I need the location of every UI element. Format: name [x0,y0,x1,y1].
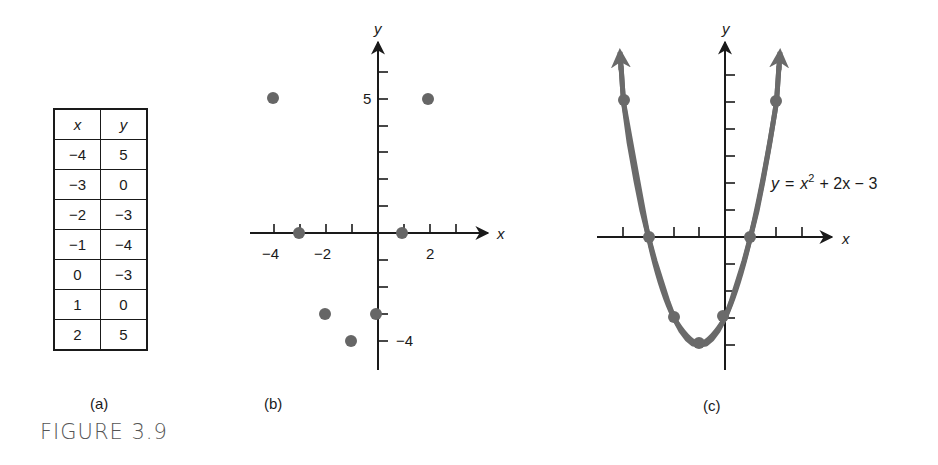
point [319,308,331,320]
point [370,308,382,320]
y-tick-label: 5 [363,90,371,107]
y-tick-label: −4 [396,332,413,349]
y-axis-label: y [721,20,731,37]
x-tick-label: 2 [426,245,434,262]
x-tick-label: −2 [314,245,331,262]
curve-arrow-right [779,52,780,70]
scatter-plot-b: y x −4 −2 2 5 −4 [250,20,505,370]
point [770,95,782,107]
point [345,335,357,347]
point [693,337,705,349]
equation-label: y=x2+ 2x − 3 [770,172,877,192]
parabola-curve [621,58,780,345]
point [267,92,279,104]
point [422,93,434,105]
point [293,227,305,239]
point [643,231,655,243]
charts-canvas: y x −4 −2 2 5 −4 [0,0,938,465]
parabola-plot-c: y x y=x2+ 2x − 3 [597,20,877,370]
point [744,231,756,243]
point [668,311,680,323]
y-ticks [378,72,388,341]
x-tick-label: −4 [262,245,279,262]
x-axis-label: x [841,230,850,247]
y-axis-label: y [373,20,383,37]
data-points [267,92,434,347]
point [618,94,630,106]
point [396,227,408,239]
x-axis-label: x [496,225,505,242]
point [717,310,729,322]
curve-arrow-left [620,52,621,70]
